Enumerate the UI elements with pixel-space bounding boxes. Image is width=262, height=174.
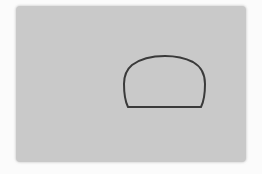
dome-shape-icon — [0, 0, 262, 174]
image-canvas — [0, 0, 262, 174]
